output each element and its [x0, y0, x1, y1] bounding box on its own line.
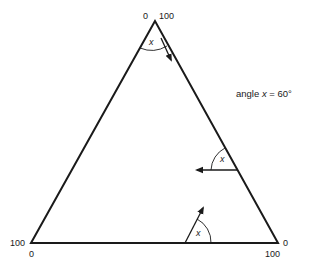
- angle-label-top: x: [148, 37, 154, 47]
- bottom-right-vertex-label-0: 0: [283, 238, 288, 248]
- bottom-right-vertex-label-100: 100: [265, 249, 280, 259]
- angle-label-right: x: [219, 154, 225, 164]
- angle-annotation-prefix: angle: [236, 88, 262, 99]
- top-vertex-label-0: 0: [143, 11, 148, 21]
- bottom-left-vertex-label-0: 0: [29, 249, 34, 259]
- angle-annotation-suffix: = 60°: [267, 88, 292, 99]
- top-vertex-label-100: 100: [159, 11, 174, 21]
- ternary-diagram: x x x 0 100 100 0 0 100 angle x = 60°: [0, 0, 314, 271]
- angle-marker-bottom: x: [185, 208, 211, 243]
- bottom-left-vertex-label-100: 100: [10, 238, 25, 248]
- triangle-outline: [31, 21, 278, 243]
- angle-label-bottom: x: [195, 228, 201, 238]
- angle-annotation: angle x = 60°: [236, 88, 292, 99]
